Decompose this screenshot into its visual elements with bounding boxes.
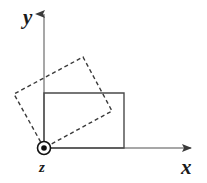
rotation-diagram: y x z [0, 0, 207, 183]
z-axis-label: z [38, 159, 45, 175]
x-axis-label: x [180, 155, 192, 179]
figure-container: y x z [0, 0, 207, 183]
y-axis-label: y [20, 5, 33, 29]
rotated-rectangle [14, 57, 112, 148]
original-rectangle [44, 93, 124, 148]
z-axis-dot-icon [41, 145, 47, 151]
